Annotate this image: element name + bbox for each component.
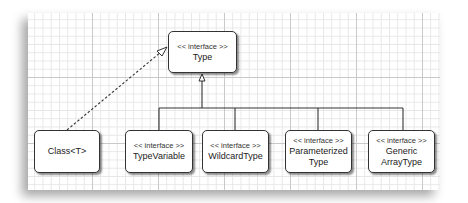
implements-edge [67, 52, 161, 130]
node-name: TypeVariable [133, 151, 185, 162]
node-typevariable: << interface >> TypeVariable [125, 130, 193, 173]
node-name: Class<T> [48, 146, 87, 157]
node-type: << interface >> Type [168, 31, 237, 73]
node-name-line-2: Type [309, 157, 329, 168]
stereotype-label: << interface >> [134, 141, 184, 151]
node-genericarraytype: << interface >> Generic ArrayType [368, 130, 435, 173]
stereotype-label: << interface >> [210, 141, 260, 151]
node-class: Class<T> [34, 130, 100, 173]
node-name: WildcardType [208, 151, 263, 162]
node-wildcardtype: << interface >> WildcardType [202, 130, 269, 173]
stereotype-label: << interface >> [376, 136, 426, 146]
hollow-arrowhead-icon [199, 74, 205, 81]
node-parameterizedtype: << interface >> Parameterized Type [285, 130, 352, 173]
node-name-line-1: Generic [386, 146, 418, 157]
stereotype-label: << interface >> [293, 136, 343, 146]
node-name-line-1: Parameterized [289, 146, 348, 157]
node-name-line-2: ArrayType [381, 157, 422, 168]
stereotype-label: << interface >> [177, 42, 227, 52]
node-name: Type [193, 52, 213, 63]
